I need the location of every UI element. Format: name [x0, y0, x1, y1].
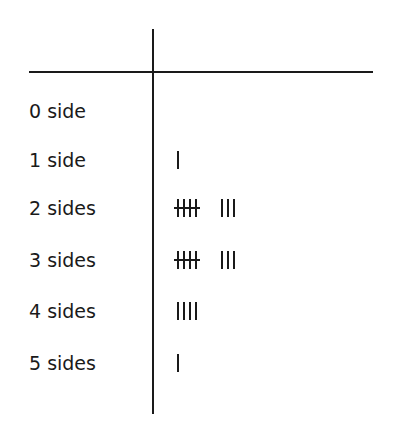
tally-bundle-of-five	[177, 199, 197, 217]
tally-cell	[177, 151, 179, 169]
tally-singles	[221, 251, 235, 269]
row-label: 1 side	[29, 149, 86, 171]
tally-cell	[177, 251, 235, 269]
tally-mark	[221, 251, 223, 269]
header-divider-line	[29, 71, 373, 73]
tally-mark	[233, 251, 235, 269]
row-label: 3 sides	[29, 249, 96, 271]
tally-mark	[177, 151, 179, 169]
tally-mark	[227, 251, 229, 269]
tally-bundle-of-five	[177, 251, 197, 269]
row-label: 5 sides	[29, 352, 96, 374]
row-label: 2 sides	[29, 197, 96, 219]
tally-strike	[174, 259, 200, 261]
row-label: 0 side	[29, 100, 86, 122]
column-divider-line	[152, 29, 154, 414]
tally-strike	[174, 207, 200, 209]
tally-singles	[177, 354, 179, 372]
row-label: 4 sides	[29, 300, 96, 322]
tally-cell	[177, 302, 197, 320]
tally-singles	[177, 302, 197, 320]
tally-cell	[177, 354, 179, 372]
tally-mark	[221, 199, 223, 217]
tally-mark	[195, 302, 197, 320]
tally-mark	[189, 302, 191, 320]
tally-singles	[177, 151, 179, 169]
tally-singles	[221, 199, 235, 217]
tally-mark	[227, 199, 229, 217]
tally-mark	[177, 354, 179, 372]
tally-mark	[233, 199, 235, 217]
tally-mark	[183, 302, 185, 320]
tally-mark	[177, 302, 179, 320]
tally-cell	[177, 199, 235, 217]
